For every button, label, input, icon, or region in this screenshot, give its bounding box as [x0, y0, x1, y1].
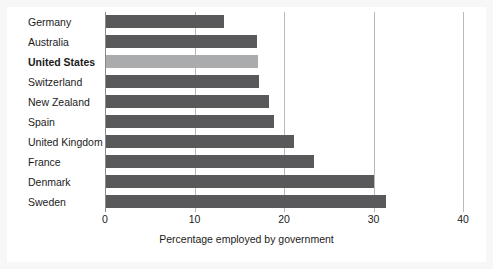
category-label-germany: Germany — [28, 12, 93, 32]
category-label-sweden: Sweden — [28, 192, 93, 212]
x-tick-label-10: 10 — [189, 213, 201, 225]
bar-france — [106, 155, 314, 168]
x-axis-title: Percentage employed by government — [0, 233, 493, 245]
bar-row — [105, 92, 463, 112]
bar-row — [105, 52, 463, 72]
bar-row — [105, 72, 463, 92]
bar-spain — [106, 115, 274, 128]
plot-area — [105, 12, 463, 212]
bar-new-zealand — [106, 95, 269, 108]
bar-row — [105, 132, 463, 152]
category-label-united-kingdom: United Kingdom — [28, 132, 93, 152]
bar-chart-figure: GermanyAustraliaUnited StatesSwitzerland… — [0, 0, 493, 269]
category-label-france: France — [28, 152, 93, 172]
bar-row — [105, 192, 463, 212]
x-tick-label-40: 40 — [457, 213, 469, 225]
category-label-united-states: United States — [28, 52, 93, 72]
category-label-switzerland: Switzerland — [28, 72, 93, 92]
bar-row — [105, 152, 463, 172]
bar-row — [105, 32, 463, 52]
bar-united-states — [106, 55, 258, 68]
category-label-spain: Spain — [28, 112, 93, 132]
bar-germany — [106, 15, 224, 28]
bar-sweden — [106, 195, 386, 208]
category-label-new-zealand: New Zealand — [28, 92, 93, 112]
x-tick-label-20: 20 — [278, 213, 290, 225]
bar-denmark — [106, 175, 374, 188]
category-axis-labels: GermanyAustraliaUnited StatesSwitzerland… — [0, 12, 100, 212]
bar-row — [105, 112, 463, 132]
bar-series — [105, 12, 463, 212]
x-tick-label-0: 0 — [102, 213, 108, 225]
bar-switzerland — [106, 75, 259, 88]
category-label-denmark: Denmark — [28, 172, 93, 192]
bar-australia — [106, 35, 257, 48]
bar-row — [105, 12, 463, 32]
bar-row — [105, 172, 463, 192]
x-tick-label-30: 30 — [368, 213, 380, 225]
chart-screenshot: GermanyAustraliaUnited StatesSwitzerland… — [0, 0, 493, 269]
category-label-australia: Australia — [28, 32, 93, 52]
bar-united-kingdom — [106, 135, 294, 148]
gridline-40 — [463, 12, 464, 212]
